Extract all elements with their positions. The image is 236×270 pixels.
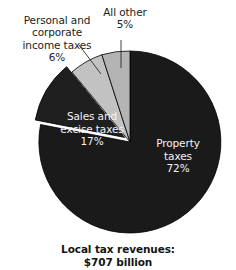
chart-caption: Local tax revenues: $707 billion <box>0 243 236 269</box>
pie-label-sales-and-excise-taxes: Sales and excise taxes 17% <box>44 110 140 148</box>
pie-chart-figure: Personal and corporate income taxes 6% A… <box>0 0 236 270</box>
pie-label-property-taxes: Property taxes 72% <box>140 137 216 175</box>
pie-label-all-other: All other 5% <box>88 6 162 31</box>
